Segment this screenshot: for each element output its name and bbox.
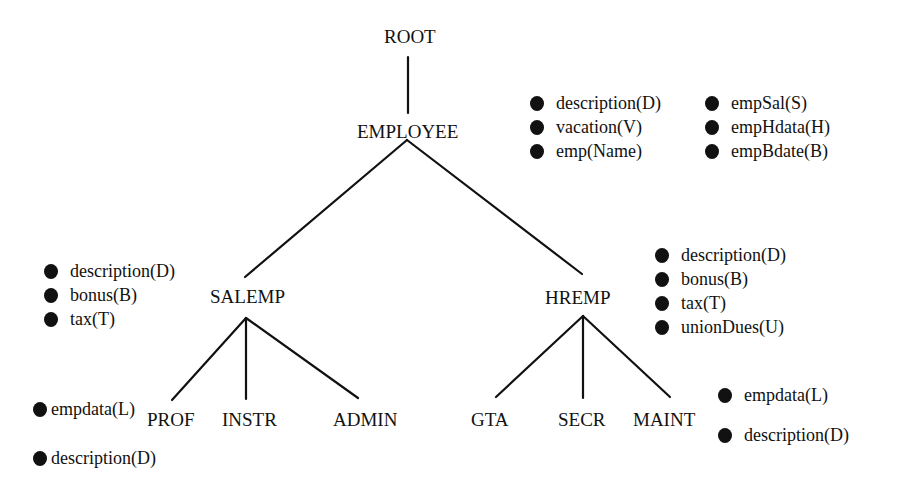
node-gta: GTA	[471, 409, 509, 431]
bullet-icon	[718, 388, 732, 403]
attribute-item: description(D)	[44, 259, 175, 283]
bullet-icon	[530, 96, 544, 111]
attribute-item: vacation(V)	[530, 115, 661, 139]
bullet-icon	[33, 451, 47, 466]
attribute-item: description(D)	[530, 91, 661, 115]
employee-attributes-col2: empSal(S) empHdata(H) empBdate(B)	[705, 91, 830, 163]
bullet-icon	[530, 120, 544, 135]
edge-salemp-prof	[172, 318, 246, 400]
bullet-icon	[44, 264, 58, 279]
maint-attributes: empdata(L) description(D)	[718, 375, 849, 455]
bullet-icon	[530, 144, 544, 159]
node-salemp: SALEMP	[210, 286, 285, 308]
bullet-icon	[44, 288, 58, 303]
node-admin: ADMIN	[333, 409, 397, 431]
attribute-item: description(D)	[718, 415, 849, 455]
attribute-item: tax(T)	[655, 291, 786, 315]
employee-attributes-col1: description(D) vacation(V) emp(Name)	[530, 91, 661, 163]
bullet-icon	[705, 120, 719, 135]
prof-attributes: empdata(L) description(D)	[33, 383, 156, 481]
node-root: ROOT	[384, 26, 436, 48]
attribute-item: empdata(L)	[718, 375, 849, 415]
bullet-icon	[33, 402, 47, 417]
node-maint: MAINT	[633, 409, 695, 431]
hremp-attributes: description(D) bonus(B) tax(T) unionDues…	[655, 243, 786, 339]
node-employee: EMPLOYEE	[357, 121, 458, 143]
bullet-icon	[655, 296, 669, 311]
salemp-attributes: description(D) bonus(B) tax(T)	[44, 259, 175, 331]
node-instr: INSTR	[222, 409, 277, 431]
edge-employee-salemp	[245, 140, 407, 277]
node-secr: SECR	[558, 409, 606, 431]
attribute-item: tax(T)	[44, 307, 175, 331]
edge-hremp-gta	[496, 316, 583, 397]
bullet-icon	[718, 428, 732, 443]
bullet-icon	[655, 248, 669, 263]
attribute-item: empdata(L)	[33, 383, 156, 435]
attribute-item: unionDues(U)	[655, 315, 786, 339]
attribute-item: description(D)	[33, 432, 156, 481]
attribute-item: empSal(S)	[705, 91, 830, 115]
bullet-icon	[705, 96, 719, 111]
edge-salemp-admin	[246, 318, 358, 398]
bullet-icon	[655, 320, 669, 335]
attribute-item: bonus(B)	[655, 267, 786, 291]
bullet-icon	[705, 144, 719, 159]
bullet-icon	[655, 272, 669, 287]
node-hremp: HREMP	[545, 287, 610, 309]
bullet-icon	[44, 312, 58, 327]
attribute-item: bonus(B)	[44, 283, 175, 307]
attribute-item: empHdata(H)	[705, 115, 830, 139]
attribute-item: emp(Name)	[530, 139, 661, 163]
attribute-item: empBdate(B)	[705, 139, 830, 163]
attribute-item: description(D)	[655, 243, 786, 267]
